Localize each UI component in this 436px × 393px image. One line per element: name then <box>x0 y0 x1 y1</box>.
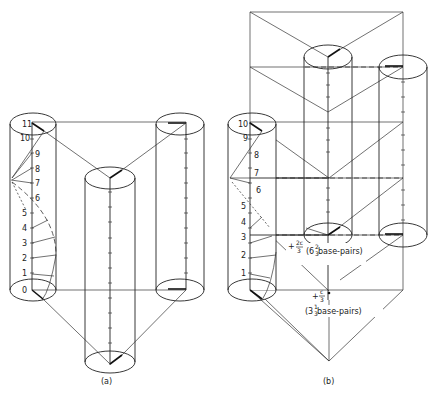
panel-a: 11 10 9 8 7 6 5 4 3 2 1 0 <box>10 113 204 386</box>
panel-a-caption: (a) <box>101 377 112 386</box>
svg-text:base-pairs): base-pairs) <box>318 247 363 256</box>
b-ladder-label-3: 3 <box>241 233 246 242</box>
svg-text:2c: 2c <box>296 239 303 246</box>
b-ladder-label-5: 5 <box>241 202 246 211</box>
arrow-icon <box>250 290 262 299</box>
annotation-upper: + 2c 3 (6 2 3 base-pairs) <box>286 239 366 265</box>
svg-text:+: + <box>288 242 295 251</box>
b-ladder-label-4: 4 <box>241 218 246 227</box>
ladder-label-5: 5 <box>22 209 27 218</box>
panel-a-right-cylinder <box>156 113 204 301</box>
ladder-label-7: 7 <box>35 179 40 188</box>
panel-a-center-cylinder <box>85 167 135 373</box>
b-ladder-label-1: 1 <box>241 269 246 278</box>
ladder-label-11: 11 <box>22 120 32 129</box>
svg-text:3: 3 <box>320 296 324 303</box>
arrow-icon <box>328 49 340 57</box>
ladder-label-2: 2 <box>22 254 27 263</box>
svg-text:c: c <box>320 288 323 295</box>
svg-text:(3: (3 <box>305 307 313 316</box>
ladder-label-1: 1 <box>22 269 27 278</box>
arrow-icon <box>32 123 44 131</box>
svg-text:+: + <box>312 292 319 301</box>
helix-cylinder-diagram: 11 10 9 8 7 6 5 4 3 2 1 0 <box>0 0 436 393</box>
ladder-label-3: 3 <box>22 239 27 248</box>
arrow-icon <box>110 170 122 178</box>
figure-stage: 11 10 9 8 7 6 5 4 3 2 1 0 <box>0 0 436 393</box>
b-ladder-label-9: 9 <box>243 134 248 143</box>
arrow-icon <box>32 290 43 299</box>
panel-a-left-cylinder: 11 10 9 8 7 6 5 4 3 2 1 0 <box>10 113 56 301</box>
arrow-icon <box>328 227 340 235</box>
panel-b: 10 9 8 7 6 5 4 3 2 1 + 2c 3 (6 2 3 base-… <box>228 12 427 386</box>
b-ladder-label-7: 7 <box>254 169 259 178</box>
ladder-label-4: 4 <box>22 224 27 233</box>
b-ladder-label-6: 6 <box>256 186 261 195</box>
b-ladder-label-10: 10 <box>238 120 248 129</box>
b-ladder-label-8: 8 <box>254 151 259 160</box>
ladder-label-9: 9 <box>35 150 40 159</box>
ladder-label-6: 6 <box>35 194 40 203</box>
panel-b-left-cylinder: 10 9 8 7 6 5 4 3 2 1 <box>228 113 329 301</box>
b-ladder-label-2: 2 <box>241 251 246 260</box>
svg-text:(6: (6 <box>306 247 314 256</box>
ladder-label-10: 10 <box>20 134 30 143</box>
panel-b-caption: (b) <box>323 377 334 386</box>
svg-text:base-pairs): base-pairs) <box>317 307 362 316</box>
svg-text:3: 3 <box>297 247 301 254</box>
annotation-lower: + c 3 (3 1 3 base-pairs) <box>305 288 386 317</box>
ladder-label-0: 0 <box>22 286 27 295</box>
ladder-label-8: 8 <box>35 165 40 174</box>
arrow-icon <box>110 355 122 364</box>
